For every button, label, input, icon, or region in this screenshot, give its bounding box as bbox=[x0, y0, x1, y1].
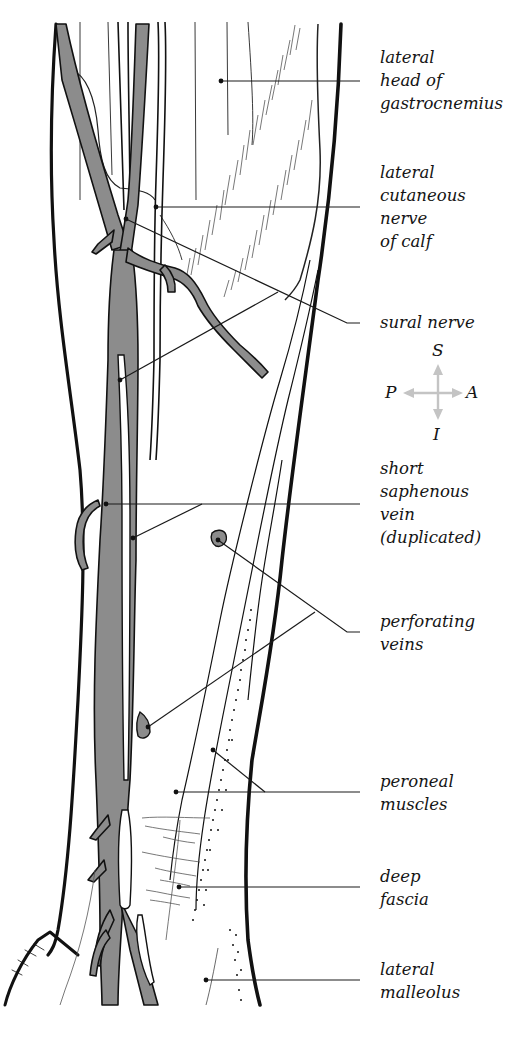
label-sural-nerve: sural nerve bbox=[380, 311, 475, 334]
orientation-posterior-label: P bbox=[385, 382, 396, 402]
orientation-compass bbox=[403, 364, 463, 420]
label-short-saphenous-vein: short saphenous vein (duplicated) bbox=[380, 457, 481, 549]
leader-lines bbox=[106, 81, 360, 980]
sural-nerve-drawing bbox=[118, 22, 130, 210]
orientation-superior-label: S bbox=[432, 340, 444, 360]
label-lateral-head-gastrocnemius: lateral head of gastrocnemius bbox=[380, 46, 503, 115]
label-peroneal-muscles: peroneal muscles bbox=[380, 770, 454, 816]
perforating-vein-markers bbox=[137, 530, 227, 738]
lateral-cutaneous-nerve-drawing bbox=[150, 22, 166, 460]
label-lateral-cutaneous-nerve: lateral cutaneous nerve of calf bbox=[380, 161, 466, 253]
gastrocnemius-lines bbox=[72, 22, 320, 300]
label-deep-fascia: deep fascia bbox=[380, 865, 429, 911]
fascia-dots bbox=[192, 609, 252, 1001]
orientation-inferior-label: I bbox=[433, 424, 440, 444]
orientation-anterior-label: A bbox=[466, 382, 478, 402]
label-lateral-malleolus: lateral malleolus bbox=[380, 958, 460, 1004]
label-perforating-veins: perforating veins bbox=[380, 610, 475, 656]
